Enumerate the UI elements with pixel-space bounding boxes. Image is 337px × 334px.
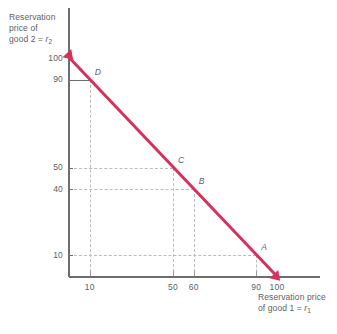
y-axis <box>68 8 70 277</box>
point-label-A: A <box>261 242 267 252</box>
gridline-h-B <box>69 189 194 190</box>
chart-figure: 1040509010010506090100DCBAReservationpri… <box>0 0 337 334</box>
y-axis-title: Reservationprice ofgood 2 = r2 <box>9 12 55 46</box>
y-tick-40 <box>68 189 73 190</box>
x-tick-50 <box>173 271 174 276</box>
y-axis-title-line-3: good 2 = r2 <box>9 34 55 45</box>
x-tick-label-60: 60 <box>180 282 208 292</box>
y-tick-10 <box>68 255 73 256</box>
point-label-B: B <box>199 176 205 186</box>
x-tick-60 <box>194 271 195 276</box>
point-label-D: D <box>95 67 101 77</box>
gridline-h-A <box>69 255 256 256</box>
y-tick-label-100: 100 <box>35 53 63 63</box>
x-axis-title: Reservation priceof good 1 = r1 <box>258 292 326 314</box>
gridline-v-C <box>173 168 174 278</box>
y-tick-label-90: 90 <box>35 74 63 84</box>
x-axis-title-line-2: of good 1 = r1 <box>258 303 326 314</box>
x-axis-title-line-1: Reservation price <box>258 292 326 303</box>
gridline-v-B <box>194 189 195 277</box>
y-tick-90 <box>68 80 73 81</box>
x-tick-10 <box>90 271 91 276</box>
x-tick-label-10: 10 <box>76 282 104 292</box>
y-tick-label-10: 10 <box>35 250 63 260</box>
y-axis-title-line-2: price of <box>9 23 55 34</box>
y-tick-label-40: 40 <box>35 184 63 194</box>
x-tick-90 <box>256 271 257 276</box>
point-label-C: C <box>178 155 184 165</box>
gridline-h-C <box>69 168 173 169</box>
y-axis-title-line-1: Reservation <box>9 12 55 23</box>
y-tick-50 <box>68 168 73 169</box>
y-tick-label-50: 50 <box>35 162 63 172</box>
gridline-v-D <box>90 80 91 277</box>
